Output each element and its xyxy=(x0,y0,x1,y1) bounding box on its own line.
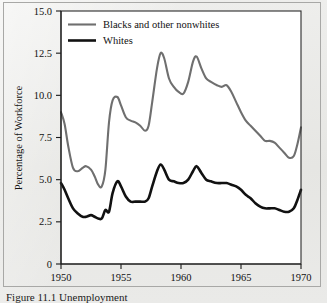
y-tick-label: 5.0 xyxy=(39,174,52,185)
figure-page: 02.55.07.510.012.515.0 19501955196019651… xyxy=(0,0,327,303)
chart-container: 02.55.07.510.012.515.0 19501955196019651… xyxy=(0,0,327,303)
y-tick-label: 10.0 xyxy=(34,90,52,101)
x-axis-tick-labels: 19501955196019651970 xyxy=(51,272,312,283)
figure-caption: Figure 11.1 Unemployment xyxy=(6,291,321,303)
y-axis-title: Percentage of Workforce xyxy=(13,85,24,190)
y-tick-label: 0 xyxy=(47,259,52,270)
y-axis-tick-labels: 02.55.07.510.012.515.0 xyxy=(34,6,52,270)
y-tick-label: 7.5 xyxy=(39,132,52,143)
x-tick-label: 1950 xyxy=(51,272,72,283)
x-tick-label: 1955 xyxy=(111,272,132,283)
x-tick-label: 1970 xyxy=(291,272,312,283)
y-tick-label: 12.5 xyxy=(34,48,52,59)
x-tick-label: 1960 xyxy=(171,272,192,283)
x-tick-label: 1965 xyxy=(231,272,252,283)
plot-area-background xyxy=(61,11,301,264)
y-tick-label: 15.0 xyxy=(34,6,52,17)
y-axis-ticks xyxy=(56,11,61,264)
legend-label-whites: Whites xyxy=(103,35,133,46)
x-axis-ticks xyxy=(61,264,301,269)
y-tick-label: 2.5 xyxy=(39,216,52,227)
unemployment-line-chart: 02.55.07.510.012.515.0 19501955196019651… xyxy=(0,0,327,303)
legend-label-blacks-and-other-nonwhites: Blacks and other nonwhites xyxy=(103,19,219,30)
